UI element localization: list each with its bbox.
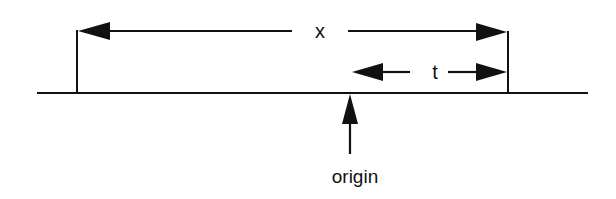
dimension-diagram: x t origin [0, 0, 616, 199]
t-dimension-arrow: t [352, 61, 507, 83]
x-dimension-label: x [315, 20, 325, 42]
t-arrowhead-left-icon [352, 63, 383, 81]
x-dimension-arrow: x [78, 20, 507, 42]
x-arrowhead-left-icon [78, 22, 110, 40]
x-arrowhead-right-icon [476, 23, 507, 41]
t-arrowhead-right-icon [476, 63, 507, 81]
origin-arrowhead-icon [342, 94, 358, 124]
origin-label: origin [332, 166, 378, 187]
t-dimension-label: t [432, 61, 438, 83]
origin-pointer: origin [332, 94, 378, 187]
